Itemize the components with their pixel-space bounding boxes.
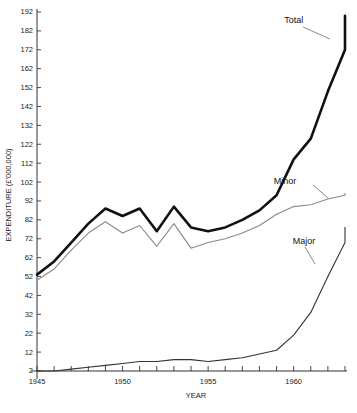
y-tick-label: 22 <box>25 329 33 338</box>
x-tick-label: 1960 <box>285 377 302 386</box>
series-annotations: TotalMinorMajor <box>274 15 330 264</box>
y-tick-label: 32 <box>25 310 33 319</box>
x-tick-label: 1955 <box>200 377 217 386</box>
y-axis-title: EXPENDITURE (£'000,000) <box>4 148 13 242</box>
y-tick-label: 132 <box>20 121 33 130</box>
y-axis: 2122232425262728292102112122132142152162… <box>20 7 41 379</box>
leader-line-minor <box>313 185 328 198</box>
y-tick-label: 102 <box>20 178 33 187</box>
y-tick-label: 192 <box>20 7 33 16</box>
series-label-minor: Minor <box>274 176 297 186</box>
y-tick-label: 12 <box>25 348 33 357</box>
y-tick-label: 72 <box>25 234 33 243</box>
y-tick-label: 42 <box>25 291 33 300</box>
y-tick-label: 172 <box>20 45 33 54</box>
x-axis-title: YEAR <box>186 391 207 400</box>
y-tick-label: 182 <box>20 26 33 35</box>
data-series-group <box>37 16 345 371</box>
leader-line-total <box>303 27 330 39</box>
y-tick-label: 152 <box>20 83 33 92</box>
y-tick-label: 52 <box>25 272 33 281</box>
series-label-total: Total <box>284 15 303 25</box>
chart-canvas: 2122232425262728292102112122132142152162… <box>0 0 357 413</box>
line-chart-figure: 2122232425262728292102112122132142152162… <box>0 0 357 413</box>
y-tick-label: 122 <box>20 140 33 149</box>
leader-line-major <box>305 247 315 264</box>
series-label-major: Major <box>293 236 316 246</box>
y-tick-label: 92 <box>25 196 33 205</box>
series-line-major <box>37 227 345 371</box>
y-tick-label: 62 <box>25 253 33 262</box>
x-tick-label: 1945 <box>29 377 46 386</box>
x-tick-label: 1950 <box>114 377 131 386</box>
y-tick-label: 82 <box>25 215 33 224</box>
y-tick-label: 112 <box>21 159 33 168</box>
y-tick-label: 162 <box>20 64 33 73</box>
y-tick-label: 142 <box>20 102 33 111</box>
